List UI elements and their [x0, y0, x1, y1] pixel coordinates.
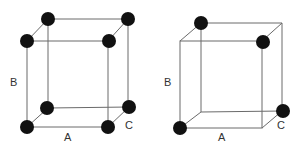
label-a: A: [218, 131, 226, 143]
atom-back-top-right: [121, 12, 135, 26]
atom-front-top-left: [20, 34, 34, 48]
atom-back-top-left: [194, 16, 208, 30]
atom-front-bottom-left: [173, 121, 187, 135]
atom-back-top-left: [41, 12, 55, 26]
atom-back-bottom-left: [40, 101, 54, 115]
label-b: B: [164, 76, 171, 88]
unit-cell-diagrams: B A C B A C: [0, 0, 304, 146]
label-b: B: [10, 76, 17, 88]
cube-left: B A C: [10, 12, 136, 143]
cube-right-front-face: [180, 41, 262, 128]
cube-right: B A C: [164, 16, 290, 143]
atom-front-top-right: [102, 34, 116, 48]
cube-left-front-face: [27, 41, 108, 127]
label-c: C: [277, 119, 285, 131]
atom-front-bottom-left: [20, 120, 34, 134]
atom-back-bottom-right: [122, 100, 136, 114]
label-c: C: [125, 119, 133, 131]
atom-front-top-right: [256, 35, 270, 49]
atom-front-bottom-right: [101, 120, 115, 134]
label-a: A: [64, 131, 72, 143]
atom-back-bottom-right: [276, 104, 290, 118]
